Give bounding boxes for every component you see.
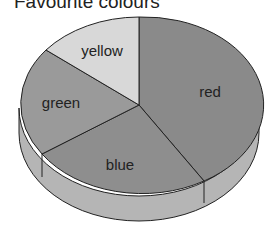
label-red: red bbox=[199, 83, 221, 100]
label-blue: blue bbox=[106, 156, 134, 173]
label-green: green bbox=[42, 94, 80, 111]
pie-chart: red blue green yellow bbox=[0, 0, 275, 226]
label-yellow: yellow bbox=[81, 42, 123, 59]
